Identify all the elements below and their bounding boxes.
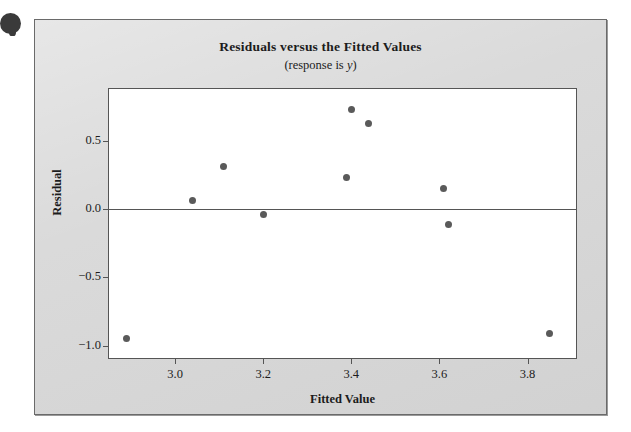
- y-axis-tick: [103, 209, 109, 210]
- figure-panel: Residuals versus the Fitted Values (resp…: [34, 19, 607, 415]
- chart-subtitle: (response is y): [35, 58, 606, 73]
- y-axis-tick-label: −0.5: [55, 269, 101, 284]
- y-axis-title: Residual: [50, 153, 65, 233]
- data-point: [220, 163, 227, 170]
- chart-subtitle-suffix: ): [352, 58, 356, 72]
- x-axis-tick: [263, 358, 264, 364]
- data-point: [546, 330, 553, 337]
- x-axis-tick-label: 3.0: [155, 367, 195, 382]
- zero-reference-line: [109, 209, 576, 210]
- y-axis-tick-label: 0.5: [55, 133, 101, 148]
- data-point: [189, 197, 196, 204]
- x-axis-tick: [528, 358, 529, 364]
- data-point: [343, 174, 350, 181]
- y-axis-tick-label: −1.0: [55, 338, 101, 353]
- data-point: [123, 335, 130, 342]
- data-point: [440, 185, 447, 192]
- data-point: [365, 120, 372, 127]
- y-axis-tick: [103, 277, 109, 278]
- data-point: [348, 106, 355, 113]
- data-point: [260, 211, 267, 218]
- x-axis-tick-label: 3.8: [508, 367, 548, 382]
- chart-title: Residuals versus the Fitted Values: [35, 39, 606, 55]
- x-axis-tick: [175, 358, 176, 364]
- x-axis-tick-label: 3.2: [243, 367, 283, 382]
- x-axis-title: Fitted Value: [108, 392, 577, 407]
- x-axis-tick: [439, 358, 440, 364]
- chart-subtitle-prefix: (response is: [284, 58, 347, 72]
- y-axis-tick: [103, 346, 109, 347]
- data-point: [445, 221, 452, 228]
- plot-area: [108, 88, 577, 359]
- x-axis-tick-label: 3.4: [331, 367, 371, 382]
- y-axis-tick: [103, 141, 109, 142]
- bullet-blob-icon: [0, 13, 21, 34]
- x-axis-tick: [351, 358, 352, 364]
- x-axis-tick-label: 3.6: [419, 367, 459, 382]
